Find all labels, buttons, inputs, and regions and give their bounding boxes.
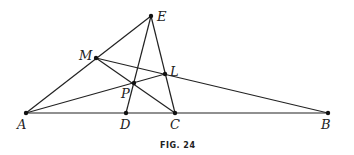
point-A — [24, 111, 28, 115]
label-M: M — [78, 48, 93, 63]
figure-caption: FIG. 24 — [160, 141, 195, 150]
point-E — [149, 14, 153, 18]
point-D — [124, 111, 128, 115]
label-L: L — [169, 64, 179, 79]
label-B: B — [320, 117, 331, 132]
label-A: A — [16, 117, 26, 132]
segment-ED — [126, 16, 151, 113]
point-C — [173, 111, 177, 115]
segment-AL — [26, 74, 165, 113]
label-E: E — [156, 9, 167, 24]
label-C: C — [170, 117, 180, 132]
point-M — [94, 56, 98, 60]
label-P: P — [120, 86, 130, 101]
segment-MB — [96, 58, 328, 113]
label-D: D — [119, 117, 131, 132]
geometry-figure: A D C B E M L P FIG. 24 — [0, 0, 354, 155]
segment-AE — [26, 16, 151, 113]
point-P — [132, 81, 136, 85]
point-B — [326, 111, 330, 115]
point-L — [163, 72, 167, 76]
